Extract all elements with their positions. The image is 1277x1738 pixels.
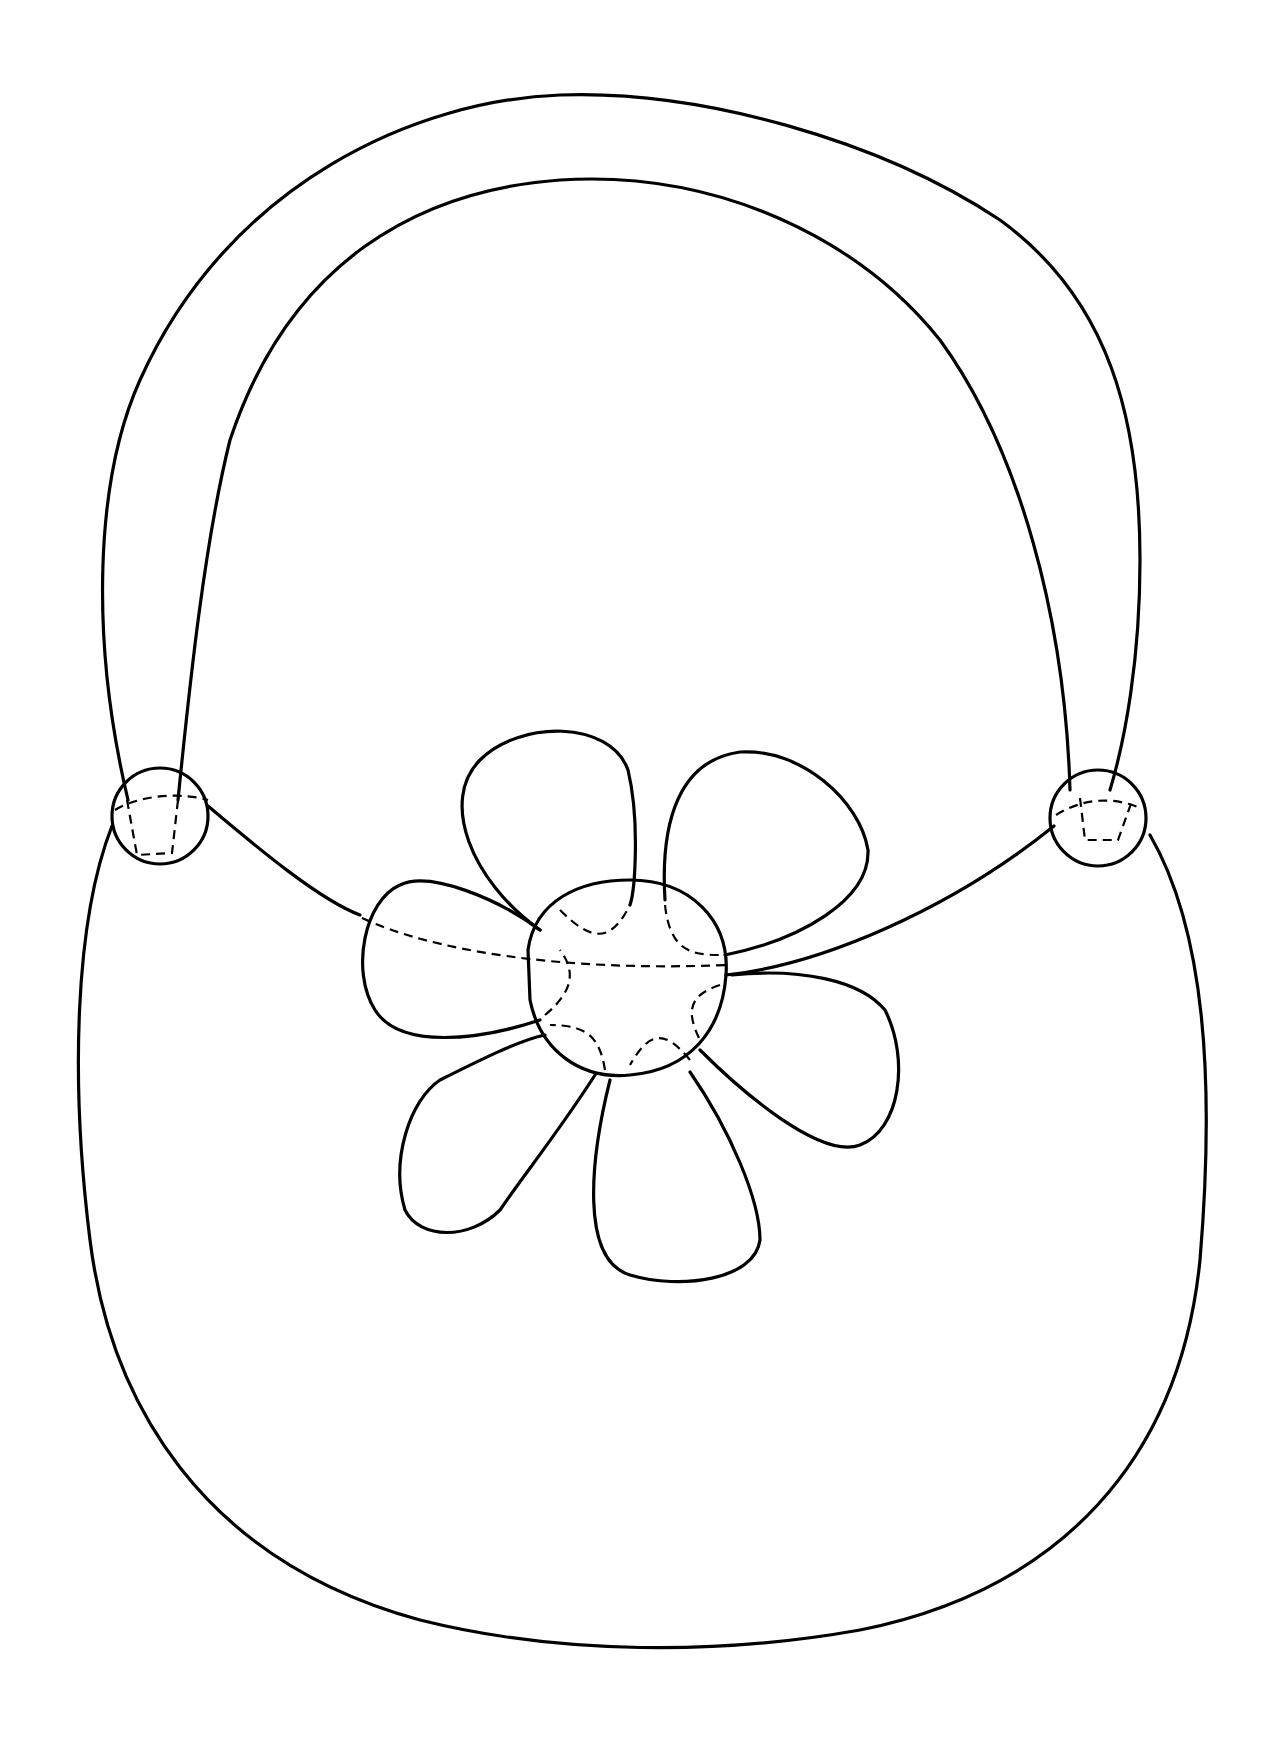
handbag-drawing [0,0,1277,1738]
